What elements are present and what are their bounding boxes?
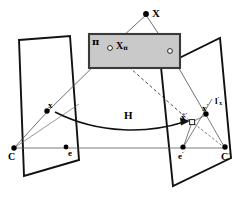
label-right-image-point-x-prime: x′ [202,103,208,113]
point-X [143,11,149,17]
label-right-transferred-point-xhat-prime: x̂′ [181,112,187,122]
label-right-image-point-prime: ′ [207,103,209,109]
label-plane-point-Xpi: Xπ [116,41,128,51]
label-left-image-point-x: x [48,101,53,110]
label-xhat-prime: ′ [186,112,188,118]
label-right-epipolar-line-lx-prime: l′x [215,96,222,106]
point-C [11,145,16,150]
label-plane-point-subscript: π [123,44,128,51]
figure-canvas [0,0,239,202]
label-plane-pi: π [92,37,99,47]
point-Xpi [108,46,113,51]
point-e-prime [180,144,185,149]
label-right-epipole-e-prime: e′ [178,151,184,161]
point-Xpi-second [168,49,173,54]
pi-plane [89,34,180,68]
point-C-prime [222,144,227,149]
label-left-camera-center-C: C [8,152,15,162]
epipolar-geometry-figure: X π Xπ H x C e x′ x̂′ l′x e′ C′ [0,0,239,202]
point-x-hat-prime [190,120,195,125]
label-left-epipole-e: e [68,149,72,158]
label-right-camera-center-C-prime: C′ [221,152,230,162]
label-Cprime-prime: ′ [228,151,230,158]
label-eprime-prime: ′ [182,151,184,157]
label-homography-H: H [124,110,133,121]
label-scene-point-X: X [152,8,160,19]
label-lx-subscript: x [219,100,222,106]
